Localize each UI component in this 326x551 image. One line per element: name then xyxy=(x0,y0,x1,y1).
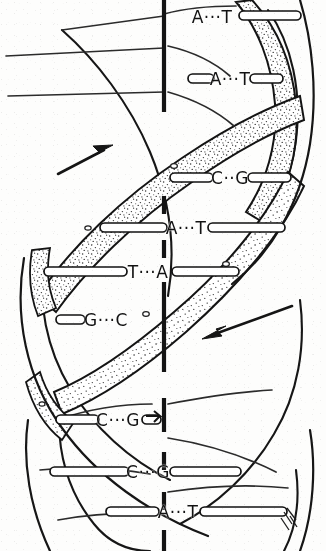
base-pair-label-3: C··G xyxy=(211,168,249,188)
arrow-strand-up xyxy=(58,145,113,174)
base-pair-label-4: A···T xyxy=(166,218,207,238)
base-pair-label-2: A···T xyxy=(210,69,251,89)
base-pair-label-5: T···A xyxy=(128,262,169,282)
base-pair-label-1: A···T xyxy=(192,7,233,27)
base-pair-label-8: C···G xyxy=(126,462,170,482)
arrow-strand-down xyxy=(202,306,292,339)
base-pair-label-6: G···C xyxy=(84,310,128,330)
base-pair-label-7: C···G xyxy=(96,410,140,430)
dna-double-helix-figure: A···T A···T C··G A···T T···A G···C C···G… xyxy=(0,0,326,551)
base-pair-label-9: A···T xyxy=(158,502,199,522)
